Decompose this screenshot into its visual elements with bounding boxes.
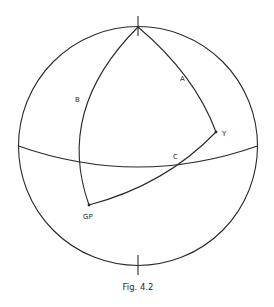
label-a: A bbox=[180, 75, 185, 83]
arc-c bbox=[89, 132, 216, 205]
arc-b bbox=[79, 27, 138, 205]
equator-arc bbox=[19, 146, 258, 167]
figure-caption: Fig. 4.2 bbox=[123, 282, 154, 292]
arc-a bbox=[138, 27, 216, 132]
sphere-outline bbox=[19, 27, 258, 266]
point-y bbox=[215, 131, 218, 134]
label-gp: GP bbox=[83, 213, 93, 221]
label-b: B bbox=[75, 96, 80, 104]
label-y: Y bbox=[221, 130, 227, 138]
celestial-sphere-diagram: A B C Y GP Fig. 4.2 bbox=[0, 0, 274, 307]
label-c: C bbox=[173, 153, 178, 161]
point-gp bbox=[88, 204, 91, 207]
